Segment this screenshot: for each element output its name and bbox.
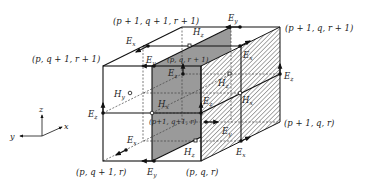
label-bottom-center: (p, q, r) xyxy=(186,167,218,177)
label-top-front-left: (p, q + 1, r + 1) xyxy=(32,54,100,64)
svg-text:Ex: Ex xyxy=(235,147,246,158)
label-mid-center: (p+1, q+1, r) xyxy=(149,118,197,126)
yee-cell-diagram: (p + 1, q + 1, r + 1) (p + 1, q, r + 1) … xyxy=(0,0,368,183)
axis-label-y: y xyxy=(9,132,15,141)
svg-text:Ey: Ey xyxy=(227,13,238,25)
svg-text:Ez: Ez xyxy=(87,109,98,120)
axis-label-z: z xyxy=(38,105,44,114)
svg-text:Hy: Hy xyxy=(113,89,125,101)
label-top-back-right: (p + 1, q, r + 1) xyxy=(285,23,353,33)
svg-text:Ex: Ex xyxy=(126,135,137,146)
svg-text:Ex: Ex xyxy=(125,36,136,47)
svg-text:Ey: Ey xyxy=(146,167,157,179)
label-top-center: (p, q, r + 1) xyxy=(167,56,209,64)
svg-text:Hz: Hz xyxy=(183,147,195,158)
svg-text:Ey: Ey xyxy=(145,55,156,67)
label-bottom-left: (p, q + 1, r) xyxy=(76,167,126,177)
coordinate-axes xyxy=(20,115,62,136)
label-top-back-left: (p + 1, q + 1, r + 1) xyxy=(113,16,199,26)
label-mid-right: (p + 1, q, r) xyxy=(284,118,334,128)
axis-label-x: x xyxy=(64,122,69,131)
svg-text:Hz: Hz xyxy=(192,27,204,38)
svg-text:Ez: Ez xyxy=(283,71,294,82)
